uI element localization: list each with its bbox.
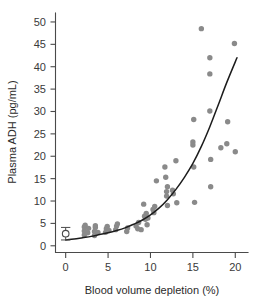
data-point [86,226,91,231]
data-point [141,201,146,206]
y-tick-label: 50 [34,16,46,28]
data-point [233,149,238,154]
data-point [144,222,149,227]
y-tick-label: 45 [34,38,46,50]
data-point [207,55,212,60]
data-point [93,223,98,228]
data-point [165,203,170,208]
data-point [138,227,143,232]
y-tick-label: 35 [34,83,46,95]
chart-figure: 05101520253035404550 05101520 Plasma ADH… [0,0,254,303]
y-tick-label: 25 [34,128,46,140]
data-point [218,145,223,150]
x-tick-label: 20 [229,261,241,273]
y-tick-label: 30 [34,105,46,117]
x-tick-label: 5 [105,261,111,273]
data-point [207,71,212,76]
baseline-open-circle-marker [62,230,69,237]
y-tick-label: 40 [34,61,46,73]
y-axis-title: Plasma ADH (pg/mL) [6,80,18,183]
data-point [174,200,179,205]
x-axis-title: Blood volume depletion (%) [85,284,220,296]
data-point [152,204,157,209]
data-point [225,119,230,124]
data-point [207,108,212,113]
x-tick-label: 10 [144,261,156,273]
data-point [165,184,170,189]
y-tick-label: 0 [40,240,46,252]
y-tick-label: 10 [34,195,46,207]
data-point [191,117,196,122]
data-point [115,221,120,226]
data-point [232,41,237,46]
plasma-adh-scatter-chart: 05101520253035404550 05101520 Plasma ADH… [0,0,254,303]
x-tick-label: 15 [187,261,199,273]
data-point [208,184,213,189]
y-tick-label: 15 [34,173,46,185]
data-point [208,157,213,162]
data-point [85,230,90,235]
data-point [190,142,195,147]
y-tick-label: 20 [34,150,46,162]
data-point [163,175,168,180]
data-point [154,178,159,183]
y-tick-label: 5 [40,217,46,229]
x-tick-label: 0 [63,261,69,273]
data-point [224,141,229,146]
data-point [162,164,167,169]
data-point [192,200,197,205]
data-point [199,26,204,31]
data-point [173,158,178,163]
